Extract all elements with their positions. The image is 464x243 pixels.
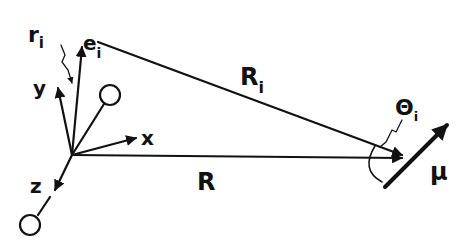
atom-upper <box>100 85 120 105</box>
r-i-leader <box>61 45 72 83</box>
label-r-i: ri <box>28 22 44 52</box>
label-mu: μ <box>430 158 448 186</box>
label-theta-i: Θi <box>395 95 418 124</box>
atom-lower <box>20 215 40 235</box>
diagram-canvas: ri ei y x z Ri R Θi μ <box>0 0 464 243</box>
label-z-axis: z <box>30 174 42 198</box>
R-vector <box>72 155 402 158</box>
label-e-i: ei <box>83 31 101 61</box>
r-i-vector <box>72 47 82 155</box>
z-axis-arrow <box>55 155 72 190</box>
label-R: R <box>197 168 215 196</box>
theta-angle-arc <box>369 146 382 182</box>
theta-leader <box>380 120 402 147</box>
label-y-axis: y <box>33 76 46 100</box>
label-R-i: Ri <box>240 63 264 97</box>
y-axis-arrow <box>58 88 72 155</box>
label-x-axis: x <box>141 126 154 150</box>
bond-lower <box>38 197 50 215</box>
